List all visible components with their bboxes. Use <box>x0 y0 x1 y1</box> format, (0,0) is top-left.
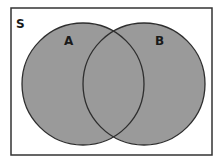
universe-label: S <box>16 17 25 31</box>
venn-diagram: S A B <box>0 0 220 165</box>
set-a-label: A <box>64 34 74 48</box>
set-b-label: B <box>155 34 164 48</box>
